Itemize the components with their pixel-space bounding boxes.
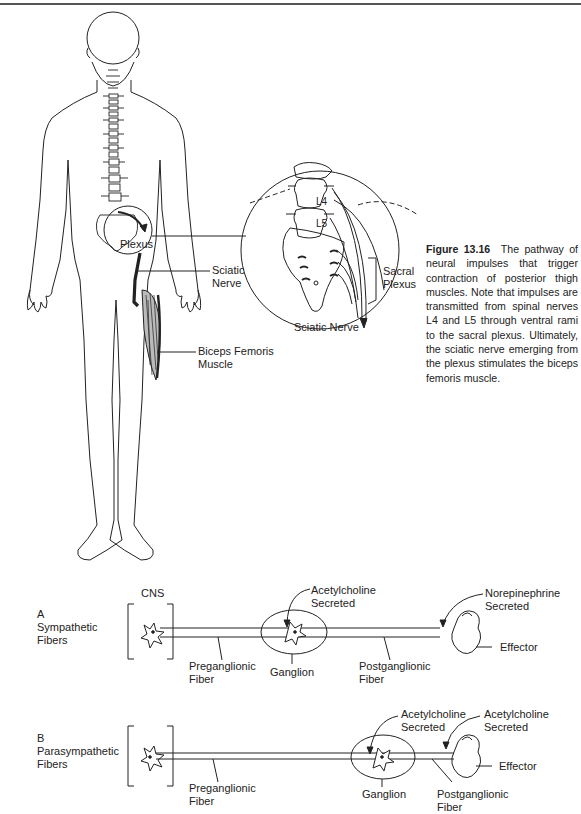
label-sciatic-nerve-line1: Sciatic	[212, 264, 244, 277]
label-inset-sciatic-nerve: Sciatic Nerve	[294, 321, 359, 334]
label-b-post-line2: Fiber	[437, 801, 462, 814]
label-b-letter: B	[37, 732, 44, 745]
label-b-title-line2: Fibers	[37, 758, 68, 771]
label-a-ganglion: Ganglion	[270, 666, 314, 679]
sacral-plexus-bracket	[368, 258, 376, 304]
label-a-pre-line1: Preganglionic	[189, 660, 256, 673]
label-a-ach-line1: Acetylcholine	[311, 584, 376, 597]
label-a-ne-line2: Secreted	[485, 600, 529, 613]
label-b-pre-line2: Fiber	[189, 795, 214, 808]
label-biceps-femoris-line1: Biceps Femoris	[198, 345, 274, 358]
figure-artwork	[0, 0, 581, 814]
figure-caption-text: The pathway of neural impulses that trig…	[426, 243, 578, 384]
label-a-ach-line2: Secreted	[311, 597, 355, 610]
label-a-pre-line2: Fiber	[189, 673, 214, 686]
label-plexus: Plexus	[120, 238, 153, 251]
figure-caption: Figure 13.16 The pathway of neural impul…	[426, 242, 578, 385]
inset-lumbosacral	[241, 163, 418, 330]
label-cns: CNS	[141, 587, 164, 600]
plexus-arrow-head	[140, 224, 147, 232]
label-sacral-plexus-line2: Plexus	[383, 278, 416, 291]
label-a-title-line1: Sympathetic	[37, 621, 98, 634]
label-a-post-line1: Postganglionic	[359, 660, 431, 673]
label-a-ne-line1: Norepinephrine	[485, 587, 560, 600]
label-b-ach2-line2: Secreted	[484, 721, 528, 734]
label-b-title-line1: Parasympathetic	[37, 745, 119, 758]
label-l4: L4	[316, 195, 327, 208]
pathway-a	[128, 589, 492, 664]
label-b-effector: Effector	[499, 760, 537, 773]
biceps-femoris-muscle	[142, 290, 160, 380]
label-b-pre-line1: Preganglionic	[189, 782, 256, 795]
spine	[96, 70, 137, 251]
label-b-post-line1: Postganglionic	[437, 788, 509, 801]
label-biceps-femoris-line2: Muscle	[198, 358, 233, 371]
label-b-ach1-line2: Secreted	[401, 721, 445, 734]
label-sciatic-nerve-line2: Nerve	[212, 277, 241, 290]
cns-bracket-a	[128, 604, 173, 659]
label-l5: L5	[316, 217, 327, 230]
label-sacral-plexus-line1: Sacral	[383, 265, 414, 278]
label-b-ach1-line1: Acetylcholine	[401, 708, 466, 721]
label-b-ach2-line1: Acetylcholine	[484, 708, 549, 721]
label-b-ganglion: Ganglion	[362, 788, 406, 801]
sciatic-nerve-line	[134, 253, 140, 306]
label-a-effector: Effector	[500, 641, 538, 654]
label-a-letter: A	[37, 608, 44, 621]
figure-number: Figure 13.16	[426, 243, 490, 255]
label-a-post-line2: Fiber	[359, 673, 384, 686]
label-a-title-line2: Fibers	[37, 634, 68, 647]
